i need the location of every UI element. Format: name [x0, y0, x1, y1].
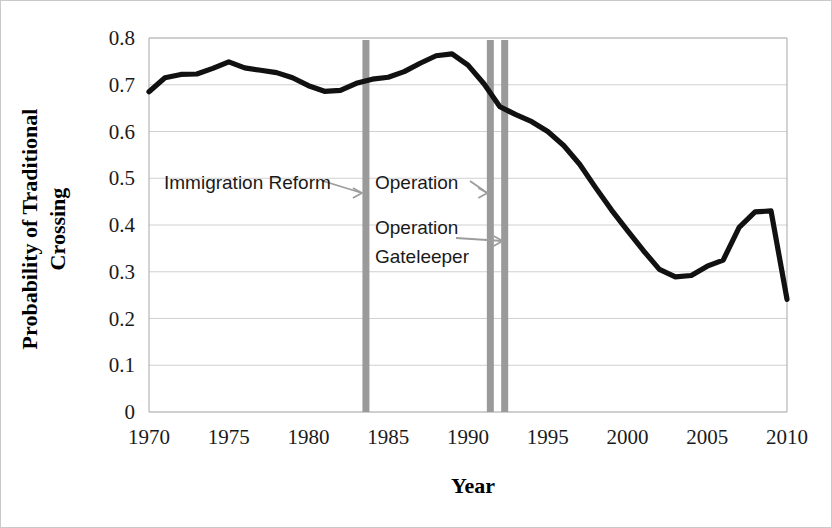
- axis-titles-group: Year Probability of Traditional Crossing: [17, 109, 495, 498]
- y-axis-tick-labels: 00.10.20.30.40.50.60.70.8: [109, 26, 136, 424]
- arrow-operation-gateleeper-shaft: [456, 238, 503, 241]
- annotation-immigration-reform: Immigration Reform: [164, 172, 331, 193]
- line-chart: 00.10.20.30.40.50.60.70.8 19701975198019…: [1, 1, 832, 528]
- annotation-operation-top: Operation: [375, 172, 458, 193]
- x-tick-label: 1990: [447, 425, 489, 449]
- y-tick-label: 0.8: [109, 26, 135, 50]
- y-tick-label: 0.3: [109, 260, 135, 284]
- x-tick-label: 2005: [686, 425, 728, 449]
- y-tick-label: 0.5: [109, 166, 135, 190]
- x-axis-tick-labels: 197019751980198519901995200020052010: [128, 425, 808, 449]
- annotation-operation-bottom: Operation: [375, 217, 458, 238]
- y-axis-title-line1: Probability of Traditional: [17, 109, 42, 350]
- y-tick-label: 0.7: [109, 73, 135, 97]
- y-tick-label: 0.4: [109, 213, 136, 237]
- x-axis-title: Year: [451, 473, 495, 498]
- x-tick-label: 1975: [208, 425, 250, 449]
- y-axis-title-line2: Crossing: [45, 188, 70, 271]
- y-tick-label: 0.1: [109, 353, 135, 377]
- arrow-operation-head: [478, 188, 487, 198]
- y-tick-label: 0.2: [109, 307, 135, 331]
- x-tick-label: 1985: [367, 425, 409, 449]
- arrow-immigration-reform-head: [353, 188, 362, 198]
- x-tick-label: 2010: [766, 425, 808, 449]
- event-marker-bar-3: [501, 40, 508, 412]
- event-marker-bar-1: [362, 40, 369, 412]
- chart-figure: 00.10.20.30.40.50.60.70.8 19701975198019…: [0, 0, 832, 528]
- y-tick-label: 0: [125, 400, 136, 424]
- x-tick-label: 1970: [128, 425, 170, 449]
- x-tick-label: 2000: [607, 425, 649, 449]
- y-tick-label: 0.6: [109, 120, 135, 144]
- annotation-labels-group: Immigration Reform Operation Operation G…: [164, 172, 470, 267]
- x-tick-label: 1980: [288, 425, 330, 449]
- gridlines-group: [149, 38, 787, 412]
- annotation-gateleeper: Gateleeper: [375, 246, 470, 267]
- x-tick-label: 1995: [527, 425, 569, 449]
